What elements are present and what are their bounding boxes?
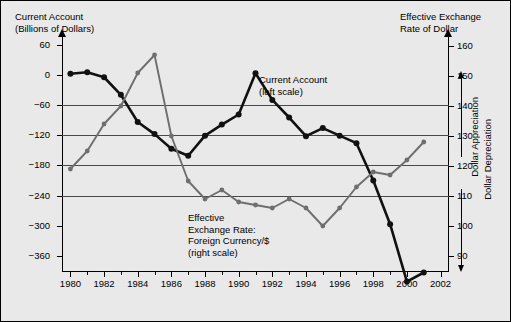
left-axis-title: Current Account (Billions of Dollars) (15, 11, 94, 34)
data-point (84, 69, 90, 75)
axis-tick-label: −240 (10, 190, 50, 201)
data-point (186, 179, 191, 184)
data-point (404, 279, 410, 285)
data-point (202, 133, 208, 139)
data-point (169, 134, 174, 139)
depreciation-rule (461, 189, 462, 267)
data-point (102, 122, 107, 127)
right-axis-title: Effective Exchange Rate of Dollar (400, 11, 481, 34)
axis-tick-label: −300 (10, 220, 50, 231)
axis-tick-minor (356, 271, 357, 275)
data-point (101, 74, 107, 80)
axis-tick-label: 60 (10, 39, 50, 50)
data-point (135, 119, 141, 125)
data-point (219, 188, 224, 193)
axis-tick (272, 271, 273, 277)
left-axis-arrow-icon (58, 29, 66, 37)
axis-tick-label: −120 (10, 129, 50, 140)
annotation-exchange-rate: Effective Exchange Rate: Foreign Currenc… (188, 212, 269, 258)
arrow-down-icon (458, 265, 464, 272)
data-point (320, 224, 325, 229)
data-point (185, 153, 191, 159)
dollar-direction-legend: Dollar Appreciation Dollar Depreciation (452, 63, 508, 279)
data-point (337, 133, 343, 139)
dollar-depreciation-label: Dollar Depreciation (482, 119, 493, 200)
data-point (253, 203, 258, 208)
data-point (67, 71, 73, 77)
axis-tick (441, 271, 442, 277)
series-exchange-rate (68, 53, 426, 229)
axis-tick-label: 2002 (421, 278, 461, 289)
data-point (68, 167, 73, 172)
appreciation-rule (461, 77, 462, 157)
axis-tick-minor (390, 271, 391, 275)
data-point (168, 146, 174, 152)
axis-tick-minor (222, 271, 223, 275)
axis-tick-minor (256, 271, 257, 275)
axis-tick-label: 160 (457, 40, 497, 51)
data-point (370, 177, 376, 183)
data-point (286, 115, 292, 121)
data-point (421, 140, 426, 145)
axis-tick (171, 271, 172, 277)
data-point (118, 92, 124, 98)
axis-tick-label: −360 (10, 250, 50, 261)
data-point (203, 197, 208, 202)
data-point (270, 206, 275, 211)
axis-tick-minor (87, 271, 88, 275)
data-point (337, 206, 342, 211)
axis-tick (449, 46, 454, 47)
axis-tick-minor (155, 271, 156, 275)
data-point (387, 221, 393, 227)
annotation-current-account: Current Account (left scale) (259, 74, 327, 97)
data-point (304, 206, 309, 211)
axis-tick (306, 271, 307, 277)
data-point (219, 122, 225, 128)
axis-tick (138, 271, 139, 277)
axis-tick (340, 271, 341, 277)
data-point (421, 270, 427, 276)
axis-tick (104, 271, 105, 277)
data-point (320, 125, 326, 131)
data-point (287, 197, 292, 202)
axis-tick (70, 271, 71, 277)
axis-tick-minor (289, 271, 290, 275)
data-point (354, 185, 359, 190)
axis-tick-minor (121, 271, 122, 275)
data-point (388, 173, 393, 178)
data-point (303, 133, 309, 139)
right-axis-arrow-icon (444, 29, 452, 37)
data-point (152, 53, 157, 58)
data-point (405, 158, 410, 163)
data-point (118, 104, 123, 109)
data-point (236, 112, 242, 118)
chart-figure: Current Account (Billions of Dollars) Ef… (0, 0, 511, 322)
data-point (135, 71, 140, 76)
axis-tick-label: 0 (10, 69, 50, 80)
axis-tick-label: −180 (10, 159, 50, 170)
data-point (353, 140, 359, 146)
data-point (253, 70, 259, 76)
axis-tick (239, 271, 240, 277)
data-point (152, 131, 158, 137)
axis-tick (407, 271, 408, 277)
data-point (85, 149, 90, 154)
data-point (236, 200, 241, 205)
axis-tick (373, 271, 374, 277)
axis-tick-minor (323, 271, 324, 275)
data-point (371, 170, 376, 175)
dollar-appreciation-label: Dollar Appreciation (469, 97, 480, 177)
axis-tick-label: −60 (10, 99, 50, 110)
data-point (269, 97, 275, 103)
axis-tick (205, 271, 206, 277)
axis-tick-minor (188, 271, 189, 275)
